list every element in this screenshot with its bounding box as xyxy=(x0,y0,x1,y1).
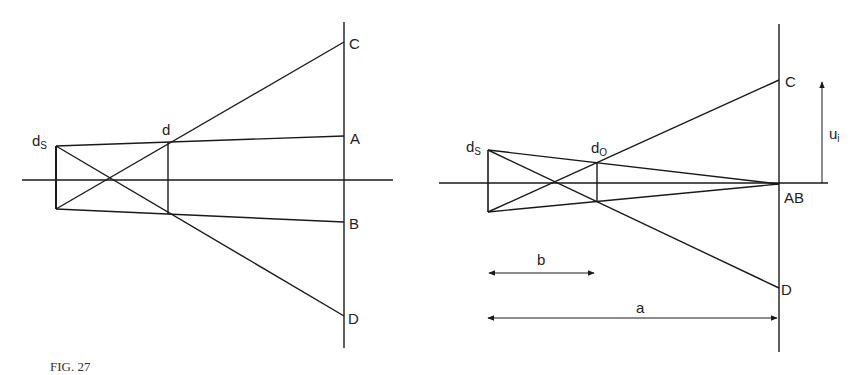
label-B-left: B xyxy=(349,216,359,231)
label-AB-right: AB xyxy=(784,190,804,205)
label-subscript: S xyxy=(474,146,481,157)
label-subscript: i xyxy=(837,133,839,144)
ray-to-D xyxy=(56,146,344,316)
ray-to-D xyxy=(488,150,779,288)
ray-to-AB-upper xyxy=(488,150,779,184)
label-subscript: S xyxy=(40,140,47,151)
label-subscript: O xyxy=(599,147,607,158)
ray-to-A xyxy=(56,136,344,146)
right-diagram xyxy=(439,24,828,352)
label-D-left: D xyxy=(348,311,359,326)
label-A-left: A xyxy=(350,131,360,146)
label-do-right: dO xyxy=(591,140,607,158)
figure-caption: FIG. 27 xyxy=(50,359,90,375)
label-d-left: d xyxy=(162,122,170,137)
left-diagram xyxy=(22,22,393,348)
ray-to-C xyxy=(56,42,344,209)
ray-to-AB-lower xyxy=(488,184,779,212)
label-D-right: D xyxy=(781,282,792,297)
ray-to-C xyxy=(488,80,779,212)
label-ds-right: dS xyxy=(466,139,481,157)
label-C-left: C xyxy=(349,36,360,51)
label-ui-right: ui xyxy=(829,126,840,144)
ray-to-B xyxy=(56,209,344,222)
label-b-right: b xyxy=(537,252,545,267)
label-a-right: a xyxy=(636,300,644,315)
label-ds-left: dS xyxy=(32,133,47,151)
label-C-right: C xyxy=(785,74,796,89)
